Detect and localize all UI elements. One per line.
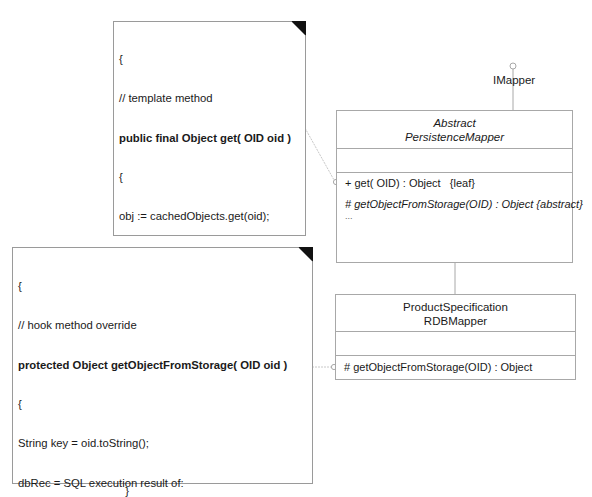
- code-line: {: [18, 398, 287, 411]
- attributes-compartment: [336, 332, 575, 356]
- code-line: // hook method override: [18, 319, 287, 332]
- operation-get-object-from-storage-abstract: # getObjectFromStorage(OID) : Object {ab…: [345, 198, 572, 211]
- class-name-line2: PersistenceMapper: [337, 131, 572, 145]
- code-line: // template method: [119, 92, 309, 105]
- hook-method-code: { // hook method override protected Obje…: [18, 254, 287, 497]
- code-line: String key = oid.toString();: [18, 437, 287, 450]
- operations-compartment: # getObjectFromStorage(OID) : Object: [336, 356, 575, 374]
- code-line: {: [119, 171, 309, 184]
- product-specification-rdb-mapper-class: ProductSpecification RDBMapper # getObje…: [335, 294, 576, 380]
- class-name-line2: RDBMapper: [336, 315, 575, 329]
- code-line: {: [18, 280, 287, 293]
- operation-get: + get( OID) : Object {leaf}: [345, 177, 572, 190]
- template-method-note: { // template method public final Object…: [113, 21, 306, 236]
- operation-get-object-from-storage: # getObjectFromStorage(OID) : Object: [344, 361, 575, 374]
- interface-label: IMapper: [493, 74, 535, 86]
- hook-method-note: { // hook method override protected Obje…: [12, 247, 313, 484]
- code-line: public final Object get( OID oid ): [119, 132, 309, 145]
- operation-ellipsis: ...: [345, 212, 572, 221]
- abstract-persistence-mapper-class: Abstract PersistenceMapper + get( OID) :…: [336, 110, 573, 263]
- code-line: protected Object getObjectFromStorage( O…: [18, 359, 287, 372]
- class-name-line1: Abstract: [337, 117, 572, 131]
- class-name-compartment: Abstract PersistenceMapper: [337, 111, 572, 149]
- interface-lollipop-icon: [510, 63, 516, 69]
- class-name-compartment: ProductSpecification RDBMapper: [336, 295, 575, 332]
- uml-class-diagram: { // template method public final Object…: [0, 0, 592, 497]
- template-note-anchor-line: [305, 128, 334, 180]
- note-corner-icon: [298, 247, 313, 262]
- code-line: obj := cachedObjects.get(oid);: [119, 210, 309, 223]
- code-line: {: [119, 53, 309, 66]
- operations-compartment: + get( OID) : Object {leaf} # getObjectF…: [337, 173, 572, 221]
- code-line: dbRec = SQL execution result of:: [18, 477, 287, 490]
- class-name-line1: ProductSpecification: [336, 301, 575, 315]
- attributes-compartment: [337, 149, 572, 173]
